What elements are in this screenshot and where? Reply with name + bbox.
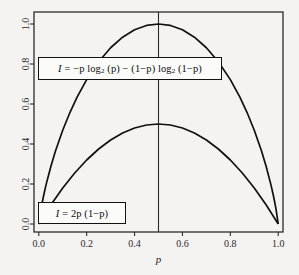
gini-formula-text: I = 2p (1−p): [56, 208, 108, 219]
gini-equals: =: [59, 208, 70, 219]
entropy-body: −p log: [73, 63, 101, 74]
entropy-equals: =: [62, 63, 73, 74]
x-tick-label: 1.0: [272, 238, 285, 249]
x-axis-title: p: [155, 253, 162, 265]
y-tick-label: 0.0: [20, 218, 31, 231]
y-tick-label: 0.8: [20, 58, 31, 71]
y-tick-label: 0.6: [20, 98, 31, 111]
entropy-formula-text: I = −p log2 (p) − (1−p) log2 (1−p): [58, 63, 202, 75]
x-tick-label: 0.8: [224, 238, 237, 249]
x-tick-label: 0.6: [176, 238, 189, 249]
chart-figure: 0.00.20.40.60.81.0 0.00.20.40.60.81.0 p …: [0, 0, 299, 275]
gini-body: 2p (1−p): [71, 208, 108, 219]
y-tick-label: 0.2: [20, 178, 31, 191]
chart-background: [0, 0, 299, 275]
x-tick-label: 0.4: [128, 238, 141, 249]
y-tick-label: 1.0: [20, 18, 31, 31]
entropy-tail: (1−p): [175, 63, 202, 74]
gini-formula-box: I = 2p (1−p): [38, 202, 126, 224]
entropy-formula-box: I = −p log2 (p) − (1−p) log2 (1−p): [38, 57, 222, 80]
chart-canvas: 0.00.20.40.60.81.0 0.00.20.40.60.81.0 p: [0, 0, 299, 275]
x-tick-label: 0.2: [80, 238, 93, 249]
entropy-mid: (p) − (1−p) log: [105, 63, 172, 74]
x-tick-label: 0.0: [33, 238, 46, 249]
y-tick-label: 0.4: [20, 138, 31, 151]
